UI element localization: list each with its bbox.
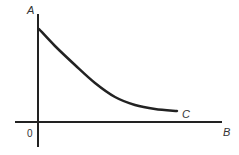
- curve-label: C: [182, 108, 190, 120]
- decay-curve: [39, 29, 177, 111]
- graph-diagram: A B 0 C: [0, 0, 239, 155]
- origin-label: 0: [27, 128, 33, 139]
- y-axis-label: A: [26, 4, 34, 16]
- x-axis-label: B: [223, 126, 230, 138]
